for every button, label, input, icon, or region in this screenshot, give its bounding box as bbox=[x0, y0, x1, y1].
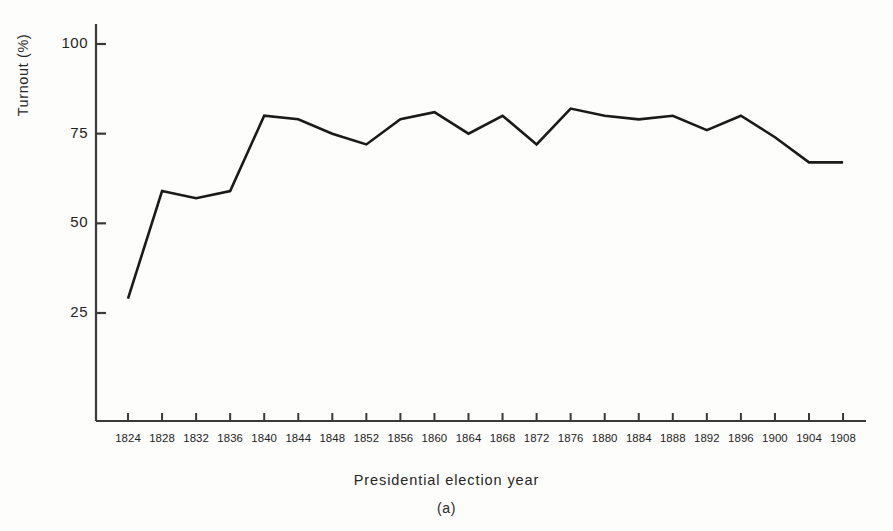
x-axis-tick-marks bbox=[128, 413, 843, 421]
x-axis-tick-labels: 1824182818321836184018441848185218561860… bbox=[0, 432, 893, 452]
y-axis-tick-marks bbox=[96, 44, 106, 313]
figure-panel: Turnout (%) 255075100 182418281832183618… bbox=[0, 0, 893, 531]
axes-group bbox=[96, 24, 866, 421]
x-axis-title: Presidential election year bbox=[0, 472, 893, 488]
x-axis-tick-label: 1908 bbox=[821, 432, 865, 444]
turnout-line-series bbox=[128, 109, 843, 299]
figure-caption: (a) bbox=[0, 500, 893, 516]
